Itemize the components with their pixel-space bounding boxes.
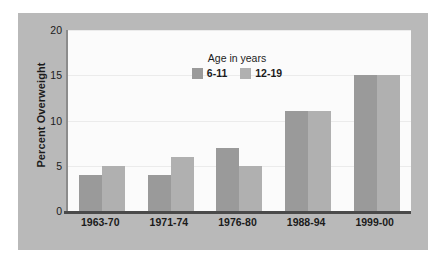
y-axis-tick-label: 5 <box>22 160 62 172</box>
plot-area: Age in years 6-1112-19 <box>66 30 411 211</box>
legend-items: 6-1112-19 <box>172 67 302 79</box>
bar-group <box>79 30 125 211</box>
bar <box>308 111 331 211</box>
legend-title: Age in years <box>172 52 302 64</box>
legend-label: 6-11 <box>207 67 227 79</box>
chart-figure: Percent Overweight 05101520 Age in years… <box>18 13 428 250</box>
x-axis-tick-label: 1971-74 <box>136 216 202 228</box>
x-axis-tick-label: 1976-80 <box>204 216 270 228</box>
y-axis-tick-label: 10 <box>22 115 62 127</box>
bar <box>354 75 377 211</box>
x-axis-tick-label: 1999-00 <box>342 216 408 228</box>
bar-group <box>354 30 400 211</box>
y-axis-tick-label: 20 <box>22 24 62 36</box>
x-axis-line <box>64 211 411 214</box>
x-axis-tick-labels: 1963-701971-741976-801988-941999-00 <box>66 216 409 228</box>
legend-swatch-icon <box>192 68 203 79</box>
y-axis-tick-labels: 05101520 <box>18 13 62 212</box>
bar <box>148 175 171 211</box>
bar <box>79 175 102 211</box>
chart-legend: Age in years 6-1112-19 <box>172 52 302 79</box>
bar <box>239 166 262 211</box>
y-axis-tick-label: 15 <box>22 69 62 81</box>
legend-item: 6-11 <box>192 67 227 79</box>
bar <box>102 166 125 211</box>
bar <box>216 148 239 211</box>
x-axis-tick-label: 1988-94 <box>273 216 339 228</box>
bar <box>171 157 194 211</box>
legend-item: 12-19 <box>240 67 282 79</box>
bar <box>285 111 308 211</box>
legend-label: 12-19 <box>255 67 282 79</box>
legend-swatch-icon <box>240 68 251 79</box>
y-axis-tick-label: 0 <box>22 205 62 217</box>
bar <box>377 75 400 211</box>
x-axis-tick-label: 1963-70 <box>67 216 133 228</box>
